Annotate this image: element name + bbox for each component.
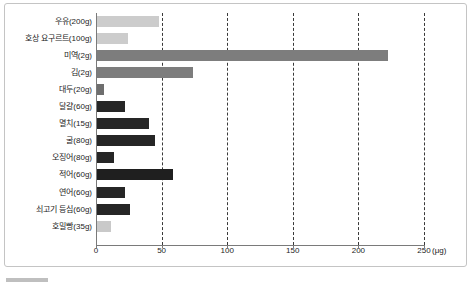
category-label: 멸치(15g) bbox=[0, 118, 92, 129]
category-label: 연어(60g) bbox=[0, 187, 92, 198]
bar bbox=[97, 101, 125, 112]
chart-figure: 우유(200g)호상 요구르트(100g)미역(2g)김(2g)대두(20g)달… bbox=[0, 0, 471, 286]
chart-row: 쇠고기 등심(60g) bbox=[0, 202, 471, 219]
chart-row: 적어(60g) bbox=[0, 167, 471, 184]
x-axis-unit-label: (μg) bbox=[432, 246, 446, 255]
plot-area: 우유(200g)호상 요구르트(100g)미역(2g)김(2g)대두(20g)달… bbox=[0, 0, 471, 286]
chart-row: 김(2g) bbox=[0, 65, 471, 82]
bar bbox=[97, 221, 111, 232]
bar bbox=[97, 152, 114, 163]
chart-row: 우유(200g) bbox=[0, 14, 471, 31]
bar bbox=[97, 67, 193, 78]
chart-row: 미역(2g) bbox=[0, 48, 471, 65]
category-label: 호상 요구르트(100g) bbox=[0, 33, 92, 44]
bar bbox=[97, 16, 159, 27]
category-label: 대두(20g) bbox=[0, 84, 92, 95]
chart-row: 굴(80g) bbox=[0, 133, 471, 150]
chart-row: 호밀빵(35g) bbox=[0, 219, 471, 236]
bar bbox=[97, 84, 104, 95]
bar bbox=[97, 33, 128, 44]
chart-row: 연어(60g) bbox=[0, 185, 471, 202]
category-label: 오징어(80g) bbox=[0, 152, 92, 163]
category-label: 김(2g) bbox=[0, 67, 92, 78]
bar bbox=[97, 118, 149, 129]
category-label: 달걀(60g) bbox=[0, 101, 92, 112]
category-label: 호밀빵(35g) bbox=[0, 221, 92, 232]
chart-row: 호상 요구르트(100g) bbox=[0, 31, 471, 48]
x-tick-label: 150 bbox=[273, 246, 313, 255]
category-label: 쇠고기 등심(60g) bbox=[0, 204, 92, 215]
x-tick-label: 100 bbox=[207, 246, 247, 255]
bar bbox=[97, 187, 125, 198]
bar bbox=[97, 204, 130, 215]
x-tick-label: 50 bbox=[142, 246, 182, 255]
x-tick-label: 0 bbox=[76, 246, 116, 255]
chart-row: 달걀(60g) bbox=[0, 99, 471, 116]
category-label: 미역(2g) bbox=[0, 50, 92, 61]
bar bbox=[97, 169, 173, 180]
category-label: 굴(80g) bbox=[0, 135, 92, 146]
cropped-caption-fragment bbox=[6, 277, 465, 283]
category-label: 적어(60g) bbox=[0, 169, 92, 180]
chart-row: 대두(20g) bbox=[0, 82, 471, 99]
caption-swatch bbox=[6, 278, 48, 282]
x-tick-label: 200 bbox=[338, 246, 378, 255]
bar bbox=[97, 135, 155, 146]
bar bbox=[97, 50, 388, 61]
chart-row: 오징어(80g) bbox=[0, 150, 471, 167]
chart-row: 멸치(15g) bbox=[0, 116, 471, 133]
category-label: 우유(200g) bbox=[0, 16, 92, 27]
